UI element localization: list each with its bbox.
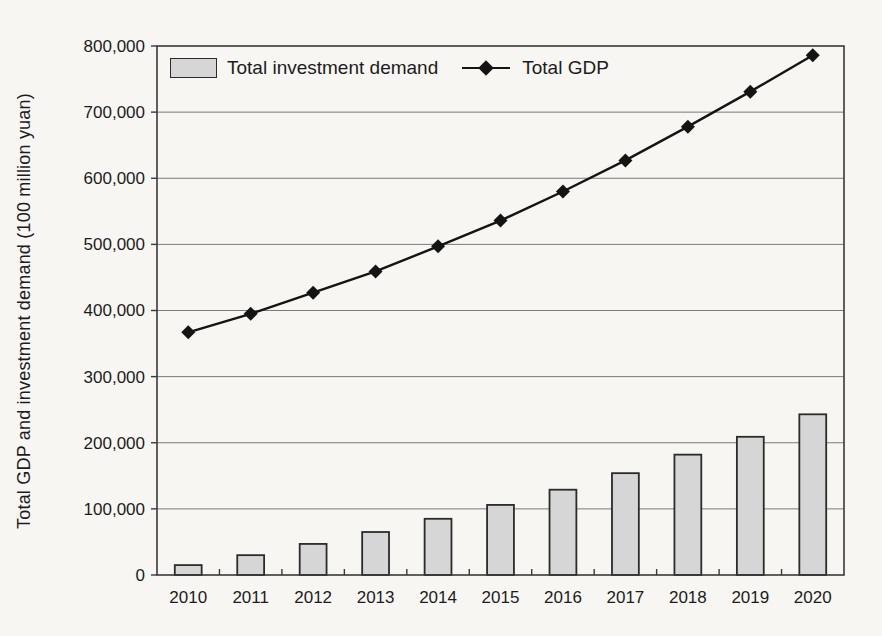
bar-2010: [175, 565, 202, 575]
y-tick-label: 800,000: [84, 37, 145, 56]
chart-figure: 0100,000200,000300,000400,000500,000600,…: [0, 0, 882, 636]
x-tick-label: 2013: [357, 588, 395, 607]
y-tick-label: 300,000: [84, 368, 145, 387]
diamond-marker-2017: [618, 153, 632, 167]
diamond-marker-2014: [431, 239, 445, 253]
bar-2012: [300, 544, 327, 575]
gdp-line: [188, 55, 813, 332]
diamond-marker-2015: [494, 214, 508, 228]
diamond-marker-2011: [244, 307, 258, 321]
y-tick-label: 0: [136, 566, 145, 585]
bar-2018: [674, 455, 701, 575]
y-tick-label: 600,000: [84, 169, 145, 188]
x-tick-label: 2018: [669, 588, 707, 607]
bar-2014: [425, 519, 452, 575]
diamond-marker-2016: [556, 184, 570, 198]
y-tick-label: 700,000: [84, 103, 145, 122]
x-tick-label: 2012: [294, 588, 332, 607]
x-tick-label: 2010: [169, 588, 207, 607]
y-axis-title: Total GDP and investment demand (100 mil…: [14, 93, 35, 529]
legend-bar-label: Total investment demand: [227, 57, 438, 79]
legend-bar-swatch: [170, 58, 217, 78]
x-tick-label: 2015: [482, 588, 520, 607]
bar-2013: [362, 532, 389, 575]
y-tick-label: 100,000: [84, 500, 145, 519]
plot-area: 0100,000200,000300,000400,000500,000600,…: [0, 0, 882, 636]
y-tick-label: 200,000: [84, 434, 145, 453]
bar-2011: [237, 555, 264, 575]
diamond-marker-2020: [806, 48, 820, 62]
x-tick-label: 2014: [419, 588, 457, 607]
bar-2015: [487, 505, 514, 575]
bar-2017: [612, 473, 639, 575]
y-tick-label: 500,000: [84, 235, 145, 254]
legend: Total investment demand Total GDP: [170, 56, 609, 80]
legend-line-label: Total GDP: [522, 57, 609, 79]
x-tick-label: 2020: [794, 588, 832, 607]
x-tick-label: 2011: [232, 588, 269, 607]
bar-2019: [737, 437, 764, 575]
diamond-marker-2012: [306, 286, 320, 300]
legend-line-sample: [462, 67, 510, 69]
x-tick-label: 2017: [606, 588, 644, 607]
diamond-marker-2018: [681, 120, 695, 134]
diamond-marker-icon: [478, 60, 494, 76]
bar-2016: [550, 490, 577, 575]
x-tick-label: 2019: [731, 588, 769, 607]
x-tick-label: 2016: [544, 588, 582, 607]
diamond-marker-2019: [743, 85, 757, 99]
diamond-marker-2013: [369, 264, 383, 278]
bar-2020: [799, 414, 826, 575]
y-tick-label: 400,000: [84, 301, 145, 320]
diamond-marker-2010: [181, 325, 195, 339]
